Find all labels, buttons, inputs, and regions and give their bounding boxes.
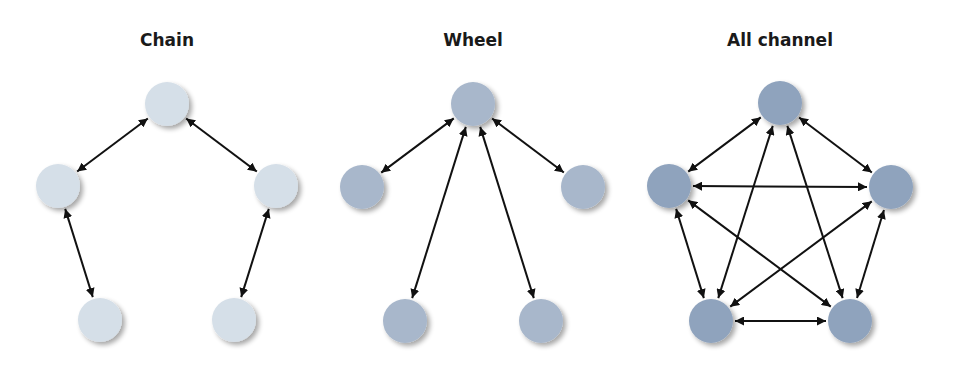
chain-edge-top-left — [77, 118, 148, 171]
chain-node-right — [254, 164, 298, 208]
all-channel-edge-left-bottom-right — [688, 200, 831, 306]
chain-node-bottom-left — [78, 298, 122, 342]
all-channel-node-top — [758, 81, 802, 125]
nodes-layer — [36, 81, 913, 343]
all-channel-node-bottom-right — [828, 299, 872, 343]
chain-node-bottom-right — [212, 298, 256, 342]
wheel-edge-top-bottom-right — [480, 127, 534, 298]
all-channel-edge-left-right — [693, 186, 867, 187]
wheel-node-top — [451, 82, 495, 126]
chain-edge-top-right — [186, 118, 257, 171]
chain-edge-right-bottom-right — [241, 209, 269, 297]
all-channel-edge-right-bottom-right — [857, 210, 884, 298]
all-channel-edge-top-left — [688, 117, 761, 171]
wheel-node-bottom-left — [383, 299, 427, 343]
all-channel-node-left — [647, 164, 691, 208]
all-channel-edge-right-bottom-left — [730, 201, 871, 306]
chain-node-top — [145, 82, 189, 126]
chain-node-left — [36, 164, 80, 208]
wheel-edge-top-left — [381, 118, 454, 172]
all-channel-edge-top-bottom-left — [718, 126, 773, 298]
wheel-node-right — [561, 165, 605, 209]
edges-layer — [65, 117, 884, 321]
wheel-edge-top-right — [492, 118, 564, 172]
all-channel-edge-top-right — [799, 117, 872, 172]
network-diagrams — [0, 0, 961, 369]
all-channel-edge-left-bottom-left — [676, 209, 704, 298]
chain-edge-left-bottom-left — [65, 209, 93, 297]
wheel-edge-top-bottom-left — [412, 127, 466, 298]
wheel-node-bottom-right — [519, 299, 563, 343]
all-channel-node-bottom-left — [689, 299, 733, 343]
all-channel-edge-top-bottom-right — [787, 126, 842, 298]
all-channel-node-right — [869, 165, 913, 209]
wheel-node-left — [340, 165, 384, 209]
